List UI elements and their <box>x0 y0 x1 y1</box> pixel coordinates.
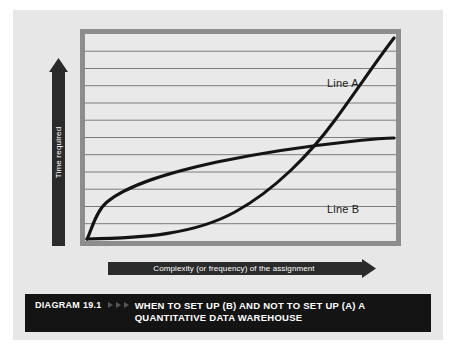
caption-arrow-markers-icon <box>108 300 129 308</box>
diagram-figure: Line A Line B Time required Complexity (… <box>0 0 455 351</box>
triangle-right-icon-2 <box>116 302 121 308</box>
caption-number: DIAGRAM 19.1 <box>35 300 102 311</box>
series-label-line-a: Line A <box>327 77 359 89</box>
x-axis-arrow-icon <box>108 259 376 278</box>
triangle-right-icon-1 <box>108 302 113 308</box>
triangle-right-icon-3 <box>124 302 129 308</box>
series-label-line-b: Line B <box>327 203 359 215</box>
caption-bar: DIAGRAM 19.1 WHEN TO SET UP (B) AND NOT … <box>25 294 431 332</box>
y-axis-arrow-icon <box>49 58 68 246</box>
caption-title: WHEN TO SET UP (B) AND NOT TO SET UP (A)… <box>135 300 423 324</box>
